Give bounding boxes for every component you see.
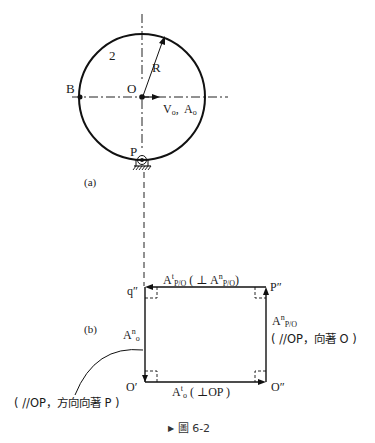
top-arrowhead-icon [145, 284, 153, 290]
corner-o-prime-label: O′ [126, 381, 137, 393]
panel-b-label: (b) [84, 324, 97, 335]
right-vector-label: AnP/O [272, 314, 297, 329]
velocity-arrowhead-icon [152, 94, 160, 100]
left-vector-note: ( //OP，方向向著 P ) [14, 398, 120, 410]
symbol: A [172, 385, 181, 399]
point-p-label: P [130, 145, 137, 158]
wheel-drawing [72, 14, 228, 286]
center-label: O [127, 82, 136, 95]
center-motion-label: Vo, Ao [163, 103, 197, 117]
left-vector-label: Ano [123, 328, 140, 343]
corner-p-label: P″ [270, 281, 282, 293]
symbol: A [123, 328, 132, 342]
center-point [139, 94, 145, 100]
note: ( ⊥OP ) [187, 385, 230, 399]
caption-marker-icon: ▶ [168, 424, 174, 433]
left-arrowhead-icon [142, 375, 148, 382]
bottom-vector-label: Ato ( ⊥OP ) [172, 385, 230, 400]
point-b [78, 95, 83, 100]
symbol: A [272, 314, 281, 328]
body-number-label: 2 [109, 49, 116, 62]
top-vector-label: AtP/O ( ⊥ AnP/O) [163, 273, 239, 288]
caption-text: 圖 6-2 [178, 422, 210, 435]
subscript: P/O [285, 320, 297, 329]
right-arrowhead-icon [263, 287, 269, 295]
right-angle-markers [145, 287, 266, 382]
ground-hatch-icon [133, 166, 151, 170]
corner-o-double-prime-label: O″ [271, 381, 285, 393]
acceleration-polygon [75, 284, 269, 395]
point-b-label: B [66, 82, 75, 95]
corner-q-label: q″ [127, 285, 138, 297]
panel-a-label: (a) [84, 177, 96, 188]
accel-symbol: A [184, 102, 193, 116]
bottom-arrowhead-icon [258, 379, 266, 385]
note-subscript: P/O [223, 279, 235, 288]
figure-caption: ▶ 圖 6-2 [168, 423, 210, 434]
subscript: o [136, 334, 140, 343]
subscript: P/O [174, 279, 186, 288]
accel-subscript: o [193, 108, 197, 117]
note-open: ( ⊥ A [186, 273, 218, 287]
velocity-symbol: V [163, 102, 172, 116]
right-vector-note: ( //OP，向著 O ) [271, 334, 357, 346]
note-close: ) [235, 273, 239, 287]
radius-label: R [152, 61, 161, 74]
diagram-canvas [0, 0, 375, 443]
separator: , [176, 102, 184, 116]
symbol: A [163, 273, 172, 287]
